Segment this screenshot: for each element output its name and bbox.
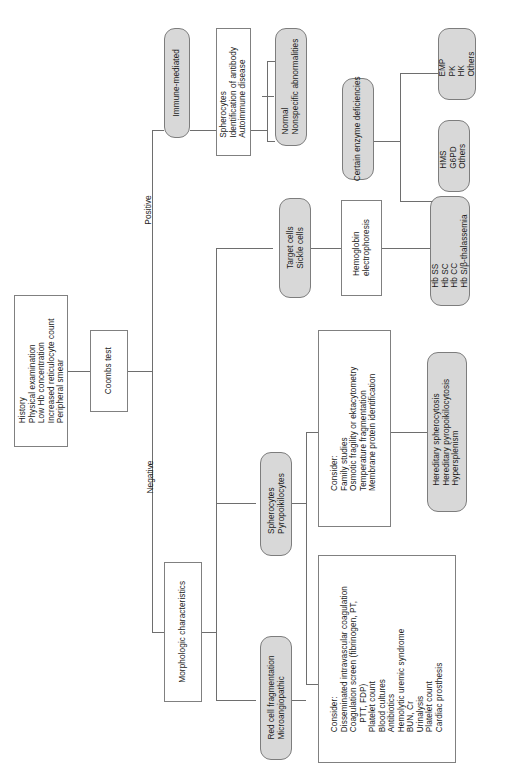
connector-fragmentation-out — [292, 700, 306, 701]
connector-to-spherocytes — [216, 503, 256, 504]
node-red-cell-fragmentation-text: Red cell fragmentation Microangiopathic — [266, 656, 285, 740]
connector-workup-out — [251, 130, 267, 131]
node-normal-nonspecific-text: Normal Nonspecific abnormalities — [281, 39, 300, 135]
connector-target-to-electro — [311, 248, 341, 249]
node-enzyme-emp[interactable]: EMP PK HK Others — [438, 28, 476, 100]
node-hemoglobinopathies[interactable]: Hb SS Hb SC Hb CC Hb S/β-thalassemia — [430, 196, 470, 306]
connector-spherocytes-trunk — [306, 432, 307, 684]
connector-normal-in — [262, 96, 274, 97]
connector-to-fragmentation — [216, 700, 256, 701]
connector-to-membrane-consider — [306, 432, 318, 433]
connector-morph-trunk — [216, 248, 217, 700]
edge-label-positive-text: Positive — [143, 195, 153, 224]
node-immune-mediated[interactable]: Immune-mediated — [164, 28, 190, 138]
edge-label-negative-text: Negative — [145, 460, 155, 493]
node-enzyme-emp-text: EMP PK HK Others — [438, 51, 476, 76]
connector-enzyme-split — [400, 73, 401, 201]
node-immune-workup-text: Spherocytes Identification of antibody A… — [219, 47, 248, 138]
connector-morph-out — [202, 632, 216, 633]
node-membrane-consider-text: Consider: Family studies Osmotic fragili… — [331, 366, 379, 490]
connector-electro-to-hb — [382, 248, 430, 249]
connector-negative-branch — [152, 632, 164, 633]
node-target-sickle-cells[interactable]: Target cells Sickle cells — [279, 198, 311, 298]
node-membrane-disorders-text: Hereditary spherocytosis Hereditary pyro… — [433, 378, 462, 485]
node-fragmentation-consider-text: Consider: Disseminated intravascular coa… — [330, 586, 444, 732]
connector-positive-branch — [152, 130, 164, 131]
edge-label-negative: Negative — [133, 472, 163, 532]
node-morphologic-characteristics-text: Morphologic characteristics — [178, 581, 188, 683]
connector-initial-to-coombs — [68, 371, 90, 372]
node-certain-enzyme-deficiencies[interactable]: Certain enzyme deficiencies — [342, 78, 374, 180]
node-red-cell-fragmentation[interactable]: Red cell fragmentation Microangiopathic — [260, 636, 292, 760]
connector-immune-split — [267, 61, 268, 141]
node-enzyme-hms-text: HMS G6PD Others — [440, 143, 469, 168]
flowchart-canvas: Positive Negative History Physical exami… — [0, 0, 510, 777]
node-certain-enzyme-deficiencies-text: Certain enzyme deficiencies — [353, 76, 363, 181]
node-initial-workup[interactable]: History Physical examination Low Hb conc… — [14, 295, 68, 447]
node-spherocytes-pyropoikilocytes-text: Spherocytes Pyropoikilocytes — [266, 474, 285, 535]
connector-to-fragmentation-consider — [306, 684, 318, 685]
node-immune-mediated-text: Immune-mediated — [172, 49, 182, 116]
node-target-sickle-cells-text: Target cells Sickle cells — [285, 227, 304, 270]
connector-enzyme-out — [374, 141, 400, 142]
connector-spherocytes-out — [292, 503, 306, 504]
connector-split-enzyme — [267, 141, 275, 142]
edge-label-positive: Positive — [133, 205, 163, 265]
node-hemoglobinopathies-text: Hb SS Hb SC Hb CC Hb S/β-thalassemia — [431, 214, 469, 287]
node-membrane-disorders[interactable]: Hereditary spherocytosis Hereditary pyro… — [427, 352, 467, 512]
node-spherocytes-pyropoikilocytes[interactable]: Spherocytes Pyropoikilocytes — [260, 452, 292, 556]
node-morphologic-characteristics[interactable]: Morphologic characteristics — [164, 562, 202, 702]
node-hemoglobin-electrophoresis[interactable]: Hemoglobin electrophoresis — [341, 200, 382, 296]
connector-coombs-out — [128, 371, 152, 372]
node-coombs-test-text: Coombs test — [104, 347, 114, 394]
connector-split-normal — [267, 61, 275, 62]
node-coombs-test[interactable]: Coombs test — [90, 330, 128, 412]
connector-to-target-cells — [216, 248, 273, 249]
connector-immune-to-workup — [190, 130, 216, 131]
node-membrane-consider[interactable]: Consider: Family studies Osmotic fragili… — [318, 330, 391, 527]
connector-split-emp — [400, 73, 438, 74]
node-immune-workup[interactable]: Spherocytes Identification of antibody A… — [216, 28, 251, 156]
node-initial-workup-text: History Physical examination Low Hb conc… — [17, 319, 65, 424]
node-normal-nonspecific[interactable]: Normal Nonspecific abnormalities — [275, 28, 307, 146]
node-fragmentation-consider[interactable]: Consider: Disseminated intravascular coa… — [318, 555, 456, 763]
connector-membrane-out — [391, 432, 427, 433]
node-enzyme-hms[interactable]: HMS G6PD Others — [438, 120, 470, 192]
node-hemoglobin-electrophoresis-text: Hemoglobin electrophoresis — [352, 219, 371, 276]
